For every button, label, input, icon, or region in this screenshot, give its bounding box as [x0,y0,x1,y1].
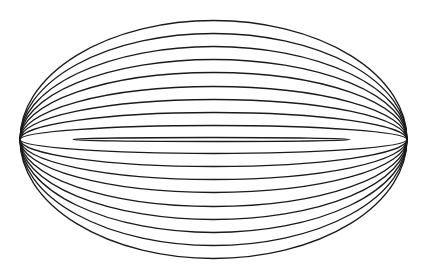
concentric-ellipses-diagram [0,0,424,275]
